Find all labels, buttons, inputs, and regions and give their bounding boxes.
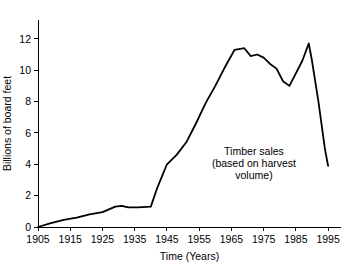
timber-sales-label-line: (based on harvest [212, 157, 296, 169]
data-series-group [38, 44, 328, 227]
x-tick-label: 1945 [155, 233, 179, 245]
y-axis-title: Billions of board feet [1, 76, 13, 171]
x-tick-label: 1985 [284, 233, 308, 245]
x-tick-label: 1955 [187, 233, 211, 245]
y-tick-label: 12 [19, 33, 31, 45]
y-tick-label: 6 [25, 127, 31, 139]
y-axis-ticks: 024681012 [19, 33, 38, 233]
x-tick-label: 1905 [26, 233, 50, 245]
y-tick-label: 2 [25, 189, 31, 201]
y-axis-group: 024681012 Billions of board feet [1, 20, 38, 233]
y-tick-label: 8 [25, 95, 31, 107]
y-tick-label: 4 [25, 158, 31, 170]
y-tick-label: 10 [19, 64, 31, 76]
x-axis-title: Time (Years) [160, 250, 219, 262]
y-tick-label: 0 [25, 221, 31, 233]
x-tick-label: 1925 [91, 233, 115, 245]
timber-sales-label-line: Timber sales [224, 145, 284, 157]
x-axis-group: 1905191519251935194519551965197519851995… [26, 227, 341, 262]
series-line-timber-sales [38, 44, 328, 227]
timber-sales-chart: 024681012 Billions of board feet 1905191… [0, 0, 360, 265]
timber-sales-label-line: volume) [235, 169, 272, 181]
x-tick-label: 1915 [59, 233, 83, 245]
x-axis-ticks: 1905191519251935194519551965197519851995 [26, 227, 340, 245]
x-tick-label: 1995 [316, 233, 340, 245]
x-tick-label: 1975 [252, 233, 276, 245]
chart-canvas: 024681012 Billions of board feet 1905191… [0, 0, 360, 265]
x-tick-label: 1965 [220, 233, 244, 245]
chart-annotations: Timber sales(based on harvestvolume) [212, 145, 296, 181]
x-tick-label: 1935 [123, 233, 147, 245]
